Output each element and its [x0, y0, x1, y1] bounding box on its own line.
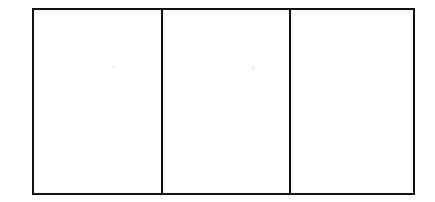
panel-left [34, 10, 161, 193]
panel-center [163, 10, 289, 193]
panel-right [291, 10, 413, 193]
figure-canvas [0, 0, 435, 202]
